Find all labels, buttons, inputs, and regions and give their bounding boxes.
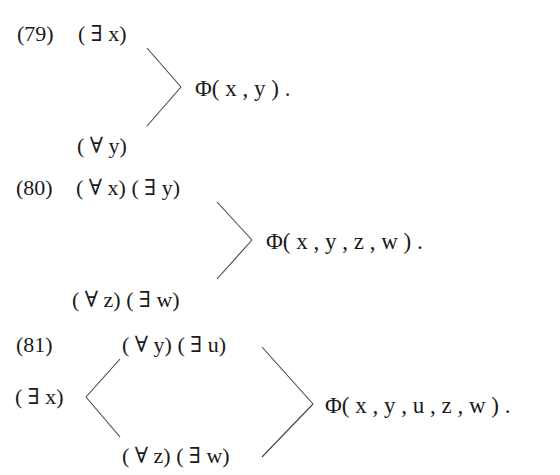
lower-quantifier-prefix: ( ∀ y) bbox=[77, 133, 127, 159]
upper-quantifier-prefix: ( ∀ y) ( ∃ u) bbox=[122, 332, 226, 358]
branch-line-80-lower bbox=[217, 240, 252, 279]
branch-line-80-upper bbox=[217, 202, 252, 240]
branch-line-81-left-upper bbox=[86, 359, 120, 397]
formula-number: (79) bbox=[17, 21, 54, 47]
formula-number: (81) bbox=[16, 332, 53, 358]
matrix-formula: Φ( x , y ) . bbox=[195, 76, 290, 102]
branch-line-81-left-lower bbox=[86, 397, 120, 437]
lower-quantifier-prefix: ( ∀ z) ( ∃ w) bbox=[72, 287, 180, 313]
branch-line-81-right-lower bbox=[262, 404, 313, 457]
branch-line-79-upper bbox=[147, 48, 181, 87]
formula-number: (80) bbox=[16, 175, 53, 201]
matrix-formula: Φ( x , y , u , z , w ) . bbox=[325, 393, 510, 419]
branch-line-81-right-upper bbox=[262, 347, 313, 404]
matrix-formula: Φ( x , y , z , w ) . bbox=[266, 229, 423, 255]
left-quantifier-prefix: ( ∃ x) bbox=[15, 384, 64, 410]
upper-quantifier-prefix: ( ∃ x) bbox=[78, 21, 127, 47]
branch-line-79-lower bbox=[147, 87, 181, 126]
lower-quantifier-prefix: ( ∀ z) ( ∃ w) bbox=[122, 443, 230, 469]
upper-quantifier-prefix: ( ∀ x) ( ∃ y) bbox=[76, 175, 180, 201]
